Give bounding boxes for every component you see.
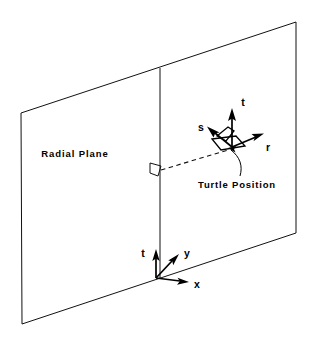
plane-edge-left xyxy=(21,113,22,324)
turtle-tangent-patches xyxy=(212,127,245,150)
diagram-svg: Radial Plane t r s xyxy=(0,0,317,339)
turtle-position-leader-line xyxy=(231,150,241,176)
global-axis-y-label: y xyxy=(184,247,190,259)
global-axis-t-label: t xyxy=(141,247,145,259)
plane-edge-top xyxy=(21,22,296,113)
dashed-connector-line xyxy=(161,150,228,170)
radial-plane-label: Radial Plane xyxy=(41,148,108,159)
figure-canvas: Radial Plane t r s xyxy=(0,0,317,339)
perpendicular-angle-marker xyxy=(150,163,161,176)
turtle-position-label: Turtle Position xyxy=(198,179,276,190)
global-axis-x-label: x xyxy=(194,278,200,290)
global-axis-x-shaft xyxy=(156,278,180,281)
turtle-axis-s-label: s xyxy=(198,121,204,133)
turtle-axis-t-label: t xyxy=(241,96,245,108)
right-angle-square xyxy=(150,163,161,176)
turtle-frame-vectors xyxy=(207,108,264,147)
turtle-axis-r-label: r xyxy=(266,141,270,153)
